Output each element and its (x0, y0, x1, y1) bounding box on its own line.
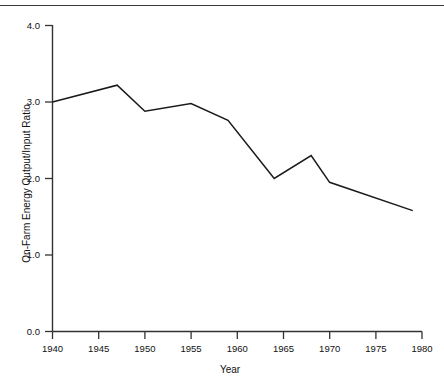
y-axis-title: On-Farm Energy Output/Input Ratio (21, 64, 32, 304)
x-tick-label-1975: 1975 (356, 343, 396, 354)
x-tick-label-1945: 1945 (79, 343, 119, 354)
x-tick-label-1940: 1940 (33, 343, 73, 354)
x-tick-label-1955: 1955 (171, 343, 211, 354)
x-tick-label-1970: 1970 (310, 343, 350, 354)
data-series-line (53, 85, 413, 210)
x-tick-label-1980: 1980 (402, 343, 442, 354)
y-tick-label-0: 0.0 (12, 326, 40, 337)
x-tick-marks (53, 332, 423, 340)
axes-group (53, 25, 423, 332)
x-tick-label-1965: 1965 (264, 343, 304, 354)
y-tick-label-4: 4.0 (12, 20, 40, 31)
y-tick-marks (45, 26, 53, 332)
x-tick-label-1950: 1950 (125, 343, 165, 354)
x-tick-label-1960: 1960 (217, 343, 257, 354)
x-axis-title: Year (140, 364, 320, 375)
line-chart-plot (0, 0, 444, 389)
chart-figure: 4.0 3.0 2.0 1.0 0.0 1940 1945 1950 1955 … (0, 0, 444, 389)
